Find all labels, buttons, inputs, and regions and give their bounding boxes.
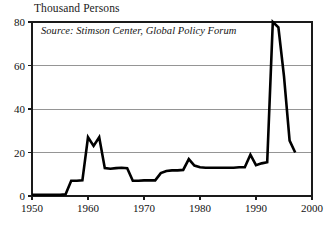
- x-axis-tick-labels: 195019601970198019902000: [21, 202, 324, 214]
- x-tick-label: 1980: [189, 202, 212, 214]
- data-series-line: [32, 22, 295, 195]
- x-tick-label: 2000: [301, 202, 324, 214]
- plot-area: 020406080 195019601970198019902000: [0, 0, 331, 225]
- x-tick-label: 1950: [21, 202, 44, 214]
- y-axis-tick-labels: 020406080: [14, 16, 26, 202]
- x-tick-label: 1960: [77, 202, 100, 214]
- chart-container: Thousand Persons Source: Stimson Center,…: [0, 0, 331, 225]
- y-tick-label: 60: [14, 60, 26, 72]
- y-tick-label: 80: [14, 16, 26, 28]
- x-tick-label: 1990: [245, 202, 268, 214]
- y-tick-label: 20: [14, 147, 26, 159]
- y-tick-label: 40: [14, 103, 26, 115]
- y-tick-label: 0: [20, 190, 26, 202]
- x-tick-label: 1970: [133, 202, 156, 214]
